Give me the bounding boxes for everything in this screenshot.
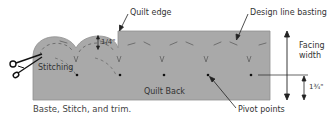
seam-allowance-arrow — [302, 76, 306, 100]
design-line-basting-label: Design line basting — [250, 9, 327, 17]
quilt-back-label: Quilt Back — [144, 88, 185, 96]
quilt-facing-diagram: Quilt edge Design line basting Facing wi… — [0, 0, 334, 125]
figure-caption: Baste, Stitch, and trim. — [33, 104, 131, 114]
stitching-label: Stitching — [38, 64, 73, 72]
quilt-edge-pointer — [120, 14, 129, 31]
one-three-quarter-inch-label: 1¾" — [309, 84, 323, 91]
quarter-inch-label: 1/4" — [101, 39, 116, 46]
facing-width-label-line1: Facing — [299, 42, 325, 50]
facing-width-label-line2: width — [299, 52, 321, 60]
pivot-points-label: Pivot points — [238, 106, 285, 114]
quilt-edge-label: Quilt edge — [130, 9, 172, 17]
facing-width-arrow — [285, 31, 290, 100]
